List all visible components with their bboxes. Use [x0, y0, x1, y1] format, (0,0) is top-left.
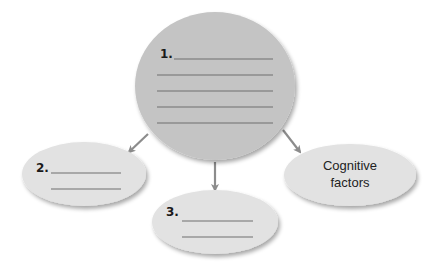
node-cognitive-label-line1: Cognitive	[300, 157, 400, 174]
arrow-to-node-cognitive	[283, 130, 300, 152]
concept-map-canvas	[0, 0, 434, 271]
node-3-number: 3.	[166, 205, 179, 219]
node-3	[152, 190, 278, 254]
central-node	[135, 12, 295, 160]
arrow-to-node-2	[129, 134, 148, 152]
node-2-number: 2.	[36, 161, 49, 175]
node-cognitive-label-line2: factors	[300, 174, 400, 191]
central-node-number: 1.	[160, 47, 173, 61]
node-cognitive-label: Cognitive factors	[300, 157, 400, 191]
